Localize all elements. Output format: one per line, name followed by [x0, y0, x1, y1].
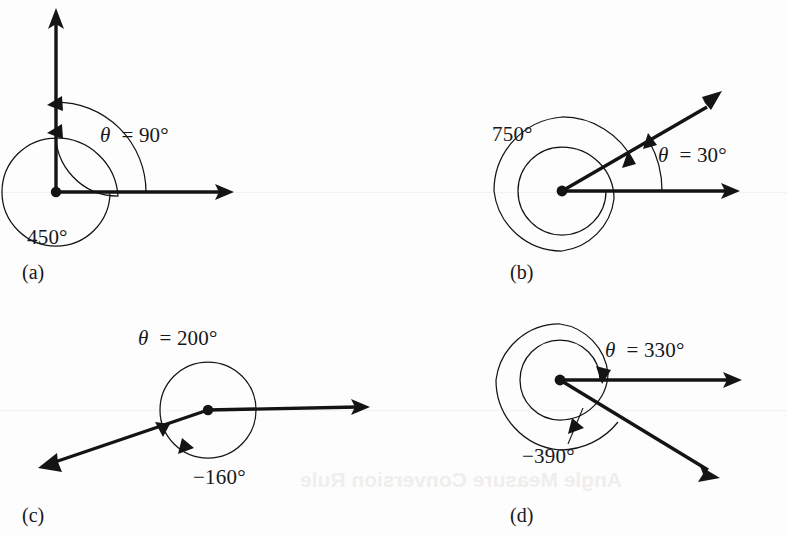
vertex-dot-a	[51, 187, 61, 197]
coterminal-angles-figure: Angle Measure Conversion Rule	[0, 0, 787, 537]
vertex-dot-d	[555, 375, 566, 386]
vertex-dot-c	[203, 405, 213, 415]
vertex-dot-b	[557, 186, 568, 197]
theta-label-d: θ = 330°	[605, 340, 685, 361]
panel-letter-b: (b)	[510, 262, 533, 282]
theta-label-a-text: = 90°	[116, 123, 169, 147]
initial-side-ray-a	[56, 184, 234, 200]
panel-c: θ = 200° −160° (c)	[0, 300, 390, 537]
panel-letter-c: (c)	[22, 505, 44, 525]
coterminal-label-b: 750°	[492, 124, 533, 145]
panel-d-diagram	[400, 300, 787, 537]
initial-side-ray-d	[560, 372, 742, 388]
terminal-side-ray-d	[560, 380, 720, 482]
initial-side-ray-b	[562, 183, 740, 199]
theta-label-c: θ = 200°	[138, 328, 218, 349]
coterminal-label-d: −390°	[522, 446, 575, 467]
terminal-side-ray-b	[562, 91, 722, 191]
panel-b: θ = 30° 750° (b)	[400, 0, 787, 290]
panel-letter-a: (a)	[22, 262, 44, 282]
theta-label-d-text: = 330°	[621, 338, 685, 362]
theta-label-b: θ = 30°	[658, 145, 727, 166]
coterminal-label-a: 450°	[27, 227, 68, 248]
panel-b-diagram	[400, 0, 787, 290]
coterminal-label-c: −160°	[193, 467, 246, 488]
theta-label-c-text: = 200°	[154, 326, 218, 350]
panel-d: θ = 330° −390° (d)	[400, 300, 787, 537]
panel-letter-d: (d)	[510, 505, 533, 525]
coterminal-spiral-d	[496, 324, 618, 450]
panel-a: θ θ = 90° = 90° 450° (a)	[0, 0, 390, 290]
initial-side-ray-c	[208, 399, 370, 415]
theta-label-b-text: = 30°	[674, 143, 727, 167]
theta-label-a: θ θ = 90° = 90°	[100, 125, 169, 146]
